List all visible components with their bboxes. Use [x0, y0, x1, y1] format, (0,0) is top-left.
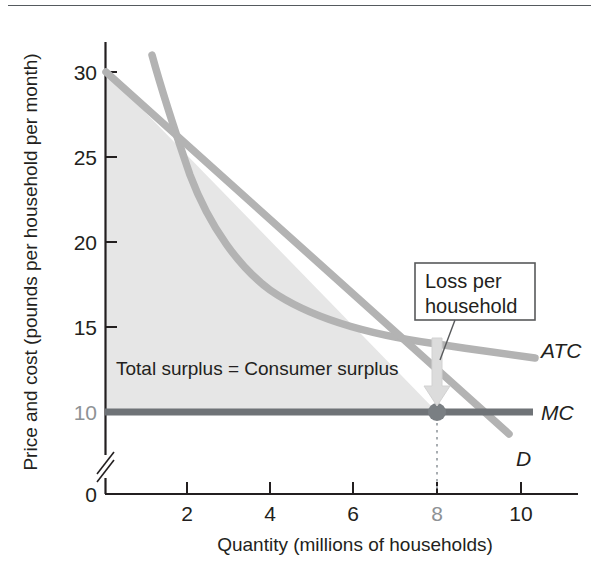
x-axis-ticks: [187, 482, 521, 494]
x-tick-label-2: 2: [181, 502, 193, 525]
callout-line-1: Loss per: [425, 270, 502, 292]
y-tick-label-25: 25: [74, 146, 97, 169]
x-axis-title: Quantity (millions of households): [217, 534, 493, 555]
x-tick-label-10: 10: [509, 502, 532, 525]
y-tick-label-20: 20: [74, 231, 97, 254]
chart-canvas: 30 25 20 15 10 0 2 4 6 8 10 Quantity (mi…: [0, 0, 597, 570]
y-axis-origin-label: 0: [85, 483, 97, 506]
demand-curve-label: D: [516, 447, 531, 470]
x-tick-label-6: 6: [347, 502, 359, 525]
callout-line-2: household: [425, 295, 517, 317]
atc-curve-label: ATC: [539, 339, 582, 362]
top-divider-rule: [8, 5, 591, 6]
y-tick-label-15: 15: [74, 316, 97, 339]
economics-figure: 30 25 20 15 10 0 2 4 6 8 10 Quantity (mi…: [0, 0, 597, 570]
total-surplus-label: Total surplus = Consumer surplus: [116, 358, 399, 379]
x-tick-label-8: 8: [431, 502, 443, 525]
mc-curve-label: MC: [541, 401, 574, 424]
y-tick-label-10: 10: [74, 401, 97, 424]
y-tick-label-30: 30: [74, 61, 97, 84]
x-tick-label-4: 4: [264, 502, 276, 525]
y-axis-title: Price and cost (pounds per household per…: [20, 53, 41, 470]
